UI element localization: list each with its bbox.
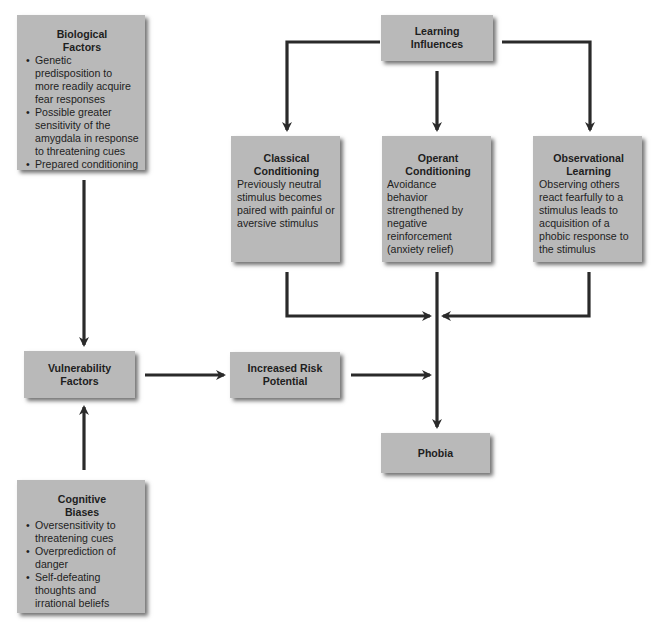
classical-conditioning-description: Previously neutral stimulus becomes pair… <box>237 178 336 230</box>
cognitive-biases-list: Oversensitivity to threatening cues Over… <box>25 519 139 610</box>
vulnerability-factors-box: Vulnerability Factors <box>24 351 135 398</box>
arrow-observational-to-merge <box>443 272 589 316</box>
increased-risk-title: Increased Risk <box>248 362 323 375</box>
learning-influences-box: Learning Influences <box>381 15 493 61</box>
classical-conditioning-box: Classical Conditioning Previously neutra… <box>231 136 340 262</box>
list-item: Possible greater sensitivity of the amyg… <box>35 106 139 158</box>
phobia-title: Phobia <box>418 447 453 460</box>
biological-factors-box: Biological Factors Genetic predispositio… <box>17 15 145 170</box>
list-item: Overprediction of danger <box>35 545 139 571</box>
learning-influences-title: Learning <box>415 25 460 38</box>
learning-influences-subtitle: Influences <box>411 38 463 51</box>
operant-conditioning-title: Operant Conditioning <box>387 152 489 178</box>
observational-learning-title: Observational Learning <box>539 152 638 178</box>
increased-risk-box: Increased Risk Potential <box>230 352 340 398</box>
increased-risk-subtitle: Potential <box>263 375 308 388</box>
observational-learning-box: Observational Learning Observing others … <box>533 136 642 262</box>
vulnerability-factors-subtitle: Factors <box>60 375 98 388</box>
cognitive-biases-box: Cognitive Biases Oversensitivity to thre… <box>17 480 145 613</box>
list-item: Oversensitivity to threatening cues <box>35 519 139 545</box>
operant-conditioning-box: Operant Conditioning Avoidance behavior … <box>382 136 491 262</box>
classical-conditioning-title: Classical Conditioning <box>237 152 336 178</box>
arrow-learning-to-classical <box>287 42 380 130</box>
biological-factors-list: Genetic predisposition to more readily a… <box>25 54 139 171</box>
biological-factors-title: Biological Factors <box>25 28 139 54</box>
arrow-classical-to-merge <box>287 272 430 316</box>
list-item: Genetic predisposition to more readily a… <box>35 54 139 106</box>
cognitive-biases-title: Cognitive Biases <box>25 493 139 519</box>
phobia-box: Phobia <box>381 433 490 473</box>
vulnerability-factors-title: Vulnerability <box>48 362 111 375</box>
arrow-learning-to-observational <box>502 42 590 130</box>
list-item: Prepared conditioning <box>35 158 139 171</box>
operant-conditioning-description: Avoidance behavior strengthened by negat… <box>387 178 467 256</box>
list-item: Self-defeating thoughts and irrational b… <box>35 571 139 610</box>
observational-learning-description: Observing others react fearfully to a st… <box>539 178 638 256</box>
